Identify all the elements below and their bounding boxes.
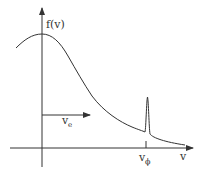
svg-text:ϕ: ϕ (145, 157, 151, 166)
distribution-diagram: f(v) v v e v ϕ (0, 0, 208, 173)
x-axis-label: v (179, 150, 187, 163)
svg-text:e: e (68, 121, 72, 129)
y-axis-label: f(v) (46, 18, 65, 31)
distribution-curve (16, 34, 185, 145)
vphi-label: v ϕ (138, 151, 151, 166)
ve-label: v e (61, 114, 72, 129)
